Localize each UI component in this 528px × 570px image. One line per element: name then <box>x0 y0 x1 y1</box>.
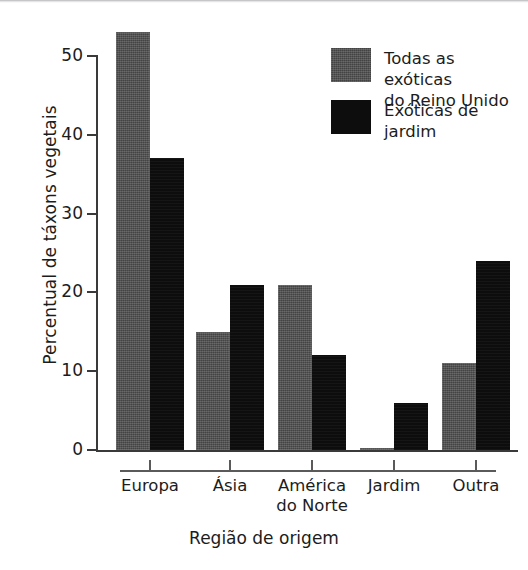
x-axis-tick-rail <box>98 460 518 472</box>
bar <box>442 363 476 450</box>
bar <box>150 158 184 450</box>
y-tick-label: 20 <box>49 283 83 300</box>
x-axis-rail-end <box>475 460 477 472</box>
legend-swatch <box>331 48 371 82</box>
x-tick-label-line: Jardim <box>368 476 421 495</box>
y-tick-label: 30 <box>49 205 83 222</box>
y-tick-mark <box>87 370 97 372</box>
bar <box>196 332 230 450</box>
legend-item: Exóticas de jardim <box>331 100 521 142</box>
x-tick-mark <box>229 460 231 472</box>
x-tick-label: Outra <box>416 476 528 496</box>
x-axis-rail-line <box>120 470 496 472</box>
y-tick-mark <box>87 134 97 136</box>
x-tick-label-line: Outra <box>453 476 500 495</box>
bar <box>394 403 428 450</box>
x-tick-mark <box>311 460 313 472</box>
y-tick-label: 10 <box>49 362 83 379</box>
bar <box>116 32 150 450</box>
y-tick-mark <box>87 55 97 57</box>
legend-swatch <box>331 100 371 134</box>
y-tick-label: 0 <box>49 441 83 458</box>
bar <box>476 261 510 450</box>
bar-group <box>196 25 264 450</box>
y-axis-title: Percentual de táxons vegetais <box>40 25 60 445</box>
y-tick-label: 50 <box>49 47 83 64</box>
x-axis-line <box>96 450 518 452</box>
legend-label: Exóticas de jardim <box>384 100 521 142</box>
x-axis-rail-end <box>149 460 151 472</box>
bar-chart: Percentual de táxons vegetais 0102030405… <box>0 0 528 570</box>
x-tick-label-line: Ásia <box>213 476 248 495</box>
y-tick-mark <box>87 213 97 215</box>
bar <box>230 285 264 450</box>
x-axis-title: Região de origem <box>0 528 528 548</box>
bar-group <box>116 25 184 450</box>
x-tick-mark <box>393 460 395 472</box>
bar <box>278 285 312 450</box>
bar <box>312 355 346 450</box>
y-tick-mark <box>87 291 97 293</box>
y-tick-label: 40 <box>49 126 83 143</box>
x-tick-label-line: do Norte <box>252 496 372 516</box>
